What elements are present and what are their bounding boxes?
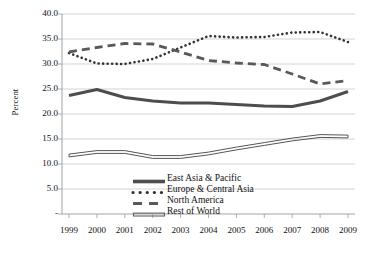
series-line-rest-of-world bbox=[69, 135, 348, 156]
legend-item-east-asia-pacific: East Asia & Pacific bbox=[131, 173, 281, 184]
chart-legend: East Asia & Pacific Europe & Central Asi… bbox=[131, 172, 281, 218]
legend-item-north-america: North America bbox=[131, 195, 281, 206]
series-line-east-asia-pacific bbox=[69, 90, 348, 107]
legend-key-double-thin-icon bbox=[131, 206, 167, 217]
line-chart: Percent 40.035.030.025.020.015.010.05.0-… bbox=[0, 0, 372, 256]
legend-label-east-asia-pacific: East Asia & Pacific bbox=[167, 173, 241, 184]
legend-key-dotted-icon bbox=[131, 184, 167, 195]
legend-label-europe-central-asia: Europe & Central Asia bbox=[167, 184, 254, 195]
series-line-rest-of-world bbox=[69, 137, 348, 158]
data-series-group bbox=[69, 32, 348, 158]
legend-label-north-america: North America bbox=[167, 195, 224, 206]
legend-label-rest-of-world: Rest of World bbox=[167, 206, 220, 217]
series-line-europe-central-asia bbox=[69, 32, 348, 64]
legend-key-dashed-icon bbox=[131, 195, 167, 206]
legend-key-solid-thick-icon bbox=[131, 173, 167, 184]
legend-item-rest-of-world: Rest of World bbox=[131, 206, 281, 217]
legend-item-europe-central-asia: Europe & Central Asia bbox=[131, 184, 281, 195]
